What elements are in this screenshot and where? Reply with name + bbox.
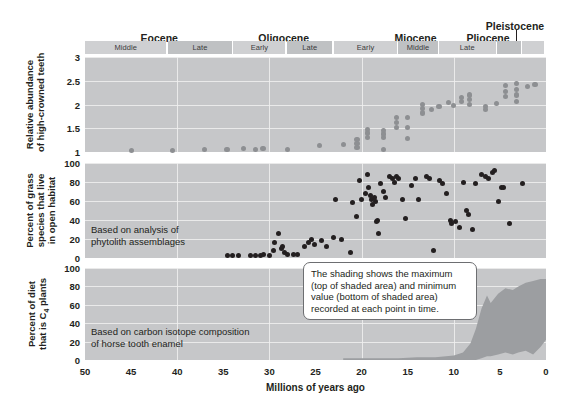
gridline-x-2-6 [362, 163, 363, 258]
data-point [302, 244, 307, 249]
data-point [276, 231, 281, 236]
gridline-x-2-4 [269, 163, 270, 258]
gridline-y-2-3 [85, 201, 546, 202]
gridline-x-1-4 [269, 57, 270, 152]
ytick-3-1: 20 [54, 336, 80, 347]
epoch-cell-late-1: Late [168, 41, 232, 54]
xtick-25: 25 [310, 366, 321, 377]
data-point [503, 89, 508, 94]
xtick-0: 0 [543, 366, 548, 377]
xtick-15: 15 [402, 366, 413, 377]
xtick-10: 10 [449, 366, 460, 377]
xtick-30: 30 [264, 366, 275, 377]
data-point [354, 137, 359, 142]
gridline-x-1-2 [177, 57, 178, 152]
data-point [396, 176, 401, 181]
data-point [170, 148, 175, 153]
gridline-y-1-3 [85, 81, 546, 82]
data-point [267, 253, 272, 258]
data-point [446, 100, 451, 105]
data-point [359, 197, 364, 202]
y-axis-label-3: Percent of dietthat is C4 plants [26, 268, 52, 360]
ytick-2-2: 40 [54, 215, 80, 226]
xtick-40: 40 [172, 366, 183, 377]
data-point [373, 199, 378, 204]
data-point [365, 172, 370, 177]
epoch-cell-late-6: Late [439, 41, 496, 54]
data-point [383, 195, 388, 200]
data-point [503, 83, 508, 88]
data-point [348, 250, 353, 255]
x-axis-title: Millions of years ago [266, 382, 365, 393]
ytick-1-0: 1 [54, 147, 80, 158]
epoch-cell-blank-7 [497, 41, 520, 54]
data-point [319, 238, 324, 243]
epoch-cell-middle-0: Middle [85, 41, 166, 54]
data-point [381, 128, 386, 133]
y-axis-label-2: Percent of grassspecies that livein open… [24, 163, 57, 258]
data-point [470, 227, 475, 232]
data-point [403, 216, 408, 221]
panel-note-2: Based on analysis of phytolith assemblag… [91, 224, 185, 248]
data-point [507, 221, 512, 226]
epoch-cell-middle-5: Middle [398, 41, 437, 54]
data-point [496, 199, 501, 204]
gridline-y-1-2 [85, 105, 546, 106]
ytick-2-5: 100 [54, 158, 80, 169]
data-point [129, 148, 134, 153]
ytick-1-1: 1.5 [54, 123, 80, 134]
ytick-2-1: 20 [54, 234, 80, 245]
ytick-3-0: 0 [54, 355, 80, 366]
xtick-5: 5 [497, 366, 502, 377]
data-point [514, 87, 519, 92]
data-point [483, 107, 488, 112]
gridline-y-2-2 [85, 220, 546, 221]
y-axis-label-1: Relative abundanceof high-crowned teeth [24, 57, 46, 152]
xtick-35: 35 [218, 366, 229, 377]
data-point [309, 237, 314, 242]
data-point [378, 181, 383, 186]
data-point [230, 253, 235, 258]
data-point [461, 180, 466, 185]
data-point [459, 99, 464, 104]
data-point [241, 146, 246, 151]
data-point [514, 92, 519, 97]
ytick-2-3: 60 [54, 196, 80, 207]
data-point [520, 181, 525, 186]
ytick-2-4: 80 [54, 177, 80, 188]
xtick-20: 20 [356, 366, 367, 377]
data-point [376, 231, 381, 236]
data-point [354, 214, 359, 219]
ytick-3-3: 60 [54, 299, 80, 310]
gridline-y-2-5 [85, 163, 546, 164]
gridline-x-2-8 [454, 163, 455, 258]
shading-explanation-callout: The shading shows the maximum (top of sh… [303, 262, 477, 320]
data-point [416, 197, 421, 202]
epoch-cell-blank-8 [522, 41, 544, 54]
data-point [253, 147, 258, 152]
data-point [224, 147, 229, 152]
data-point [280, 244, 285, 249]
data-point [271, 248, 276, 253]
epoch-cell-early-4: Early [334, 41, 397, 54]
ytick-3-2: 40 [54, 318, 80, 329]
epoch-timescale-bar: MiddleLateEarlyLateEarlyMiddleLate [0, 41, 569, 54]
xtick-50: 50 [80, 366, 91, 377]
data-point [431, 248, 436, 253]
ytick-3-5: 100 [54, 263, 80, 274]
data-point [400, 197, 405, 202]
data-point [436, 104, 441, 109]
data-point [494, 101, 499, 106]
xtick-45: 45 [126, 366, 137, 377]
data-point [375, 218, 380, 223]
epoch-cell-early-2: Early [233, 41, 285, 54]
data-point [363, 191, 368, 196]
ytick-1-2: 2 [54, 99, 80, 110]
gridline-y-1-1 [85, 128, 546, 129]
data-point [413, 176, 418, 181]
data-point [532, 82, 537, 87]
epoch-cell-late-3: Late [287, 41, 333, 54]
chart-figure: EoceneOligoceneMiocenePliocenePleistocen… [0, 0, 569, 407]
data-point [492, 168, 497, 173]
ytick-3-4: 80 [54, 281, 80, 292]
